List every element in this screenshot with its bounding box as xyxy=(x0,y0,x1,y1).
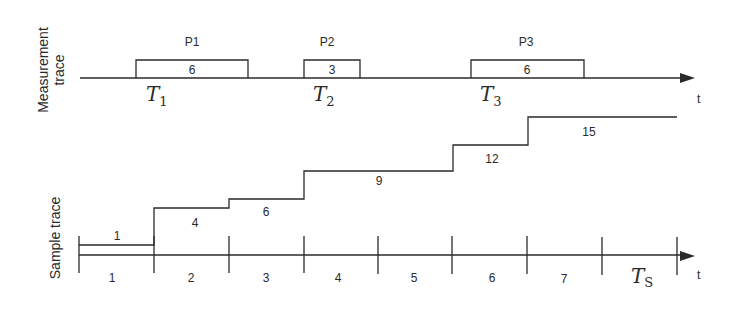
pulse-p1-value: 6 xyxy=(189,63,196,77)
level-label-9: 9 xyxy=(376,174,383,188)
interval-label-1: 1 xyxy=(109,271,116,285)
level-label-12: 12 xyxy=(485,152,499,166)
sample-period-label: TS xyxy=(631,264,653,290)
pulse-p3-time: T3 xyxy=(480,82,502,109)
measurement-ylabel-2: trace xyxy=(51,54,67,85)
sample-axis-arrow-icon xyxy=(680,251,695,261)
pulse-p2-value: 3 xyxy=(329,63,336,77)
interval-label-5: 5 xyxy=(411,271,418,285)
level-label-6: 6 xyxy=(263,205,270,219)
interval-label-2: 2 xyxy=(188,271,195,285)
interval-label-3: 3 xyxy=(263,271,270,285)
sample-ylabel: Sample trace xyxy=(47,197,63,280)
timing-diagram: Measurement trace t P1 6 T1 P2 3 T2 P3 6… xyxy=(0,0,735,312)
measurement-axis-label: t xyxy=(697,92,701,106)
level-label-1: 1 xyxy=(114,229,121,243)
pulse-p2-time: T2 xyxy=(313,82,335,109)
level-label-4: 4 xyxy=(192,216,199,230)
sample-axis-label: t xyxy=(697,268,701,282)
measurement-axis-arrow-icon xyxy=(680,73,695,83)
level-label-15: 15 xyxy=(582,125,596,139)
sample-trace: Sample trace 1 4 6 9 12 15 t 1 2 3 4 5 xyxy=(47,117,701,290)
interval-label-4: 4 xyxy=(335,271,342,285)
pulse-p3-value: 6 xyxy=(524,63,531,77)
pulse-p1-time: T1 xyxy=(146,82,168,109)
measurement-ylabel: Measurement xyxy=(35,27,51,113)
pulse-p2-name: P2 xyxy=(320,35,335,49)
interval-label-6: 6 xyxy=(489,271,496,285)
pulse-p3-name: P3 xyxy=(519,35,534,49)
measurement-trace: Measurement trace t P1 6 T1 P2 3 T2 P3 6… xyxy=(35,27,701,113)
interval-label-7: 7 xyxy=(561,272,568,286)
pulse-p1-name: P1 xyxy=(185,35,200,49)
